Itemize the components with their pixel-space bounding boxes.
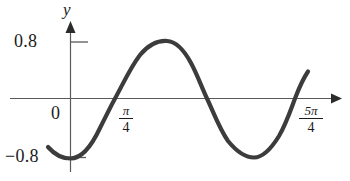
y-axis-arrow-icon: [66, 21, 76, 33]
y-axis-label: y: [63, 1, 71, 18]
sinusoid-curve: [48, 41, 308, 159]
y-tick-label-negative: −0.8: [5, 147, 39, 165]
x-axis-arrow-icon: [331, 94, 342, 104]
origin-label: 0: [51, 104, 60, 122]
fraction-numerator: π: [115, 104, 137, 118]
fraction-denominator: 4: [115, 119, 137, 135]
sinusoid-figure: y 0.8 0 −0.8 π 4 5π 4: [0, 0, 350, 181]
y-tick-label-positive: 0.8: [14, 32, 37, 50]
fraction-numerator: 5π: [296, 104, 326, 118]
fraction-denominator: 4: [296, 119, 326, 135]
x-tick-label-5pi-over-4: 5π 4: [296, 104, 326, 135]
x-tick-label-pi-over-4: π 4: [115, 104, 137, 135]
plot-canvas: [0, 0, 350, 181]
